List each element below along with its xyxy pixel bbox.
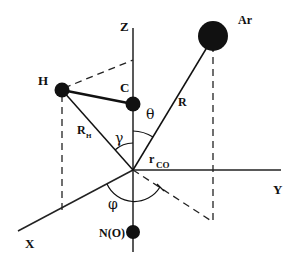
- rh-subscript: H: [86, 132, 92, 140]
- rh-label: R: [77, 123, 86, 137]
- h-atom: [55, 83, 70, 98]
- rco-subscript: CO: [156, 160, 170, 170]
- r-label: R: [178, 95, 187, 109]
- n-atom-label: N(O): [99, 226, 125, 240]
- coordinate-diagram: Z Y X H C Ar N(O) R R H r CO θ γ φ: [0, 0, 298, 264]
- y-axis-label: Y: [273, 182, 283, 197]
- theta-arc: [133, 131, 153, 137]
- z-axis-label: Z: [120, 19, 129, 34]
- x-axis-label: X: [25, 236, 35, 251]
- theta-label: θ: [146, 106, 154, 122]
- ar-projection-dashed: [133, 170, 213, 222]
- h-atom-label: H: [38, 73, 48, 88]
- gamma-label: γ: [115, 130, 123, 146]
- ar-atom: [198, 21, 228, 51]
- rco-label: r: [149, 152, 155, 166]
- phi-label: φ: [108, 196, 118, 212]
- c-atom-label: C: [120, 80, 129, 95]
- c-atom: [126, 97, 141, 112]
- n-atom: [126, 225, 140, 239]
- r-vector: [133, 44, 209, 170]
- diagram-canvas: Z Y X H C Ar N(O) R R H r CO θ γ φ: [0, 0, 298, 264]
- ar-atom-label: Ar: [238, 13, 253, 27]
